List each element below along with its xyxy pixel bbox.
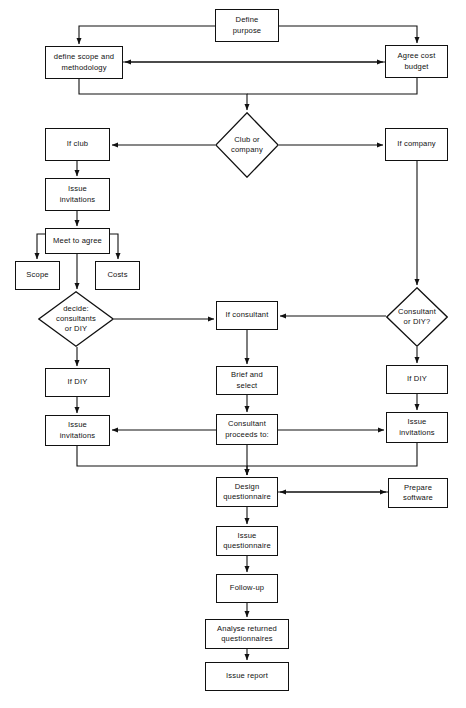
node-analyse_returned: Analyse returnedquestionnaires [205,619,289,649]
connector-define_scope-to-club_or_company [79,79,247,110]
node-issue_questionnaire: Issuequestionnaire [216,526,278,556]
node-label-club_or_company: Club orcompany [215,112,279,178]
node-if_diy_left: If DIY [45,368,110,397]
node-if_company: If company [385,128,448,161]
node-label-issue_invitations_1: Issueinvitations [60,184,95,205]
node-label-analyse_returned: Analyse returnedquestionnaires [217,624,277,645]
node-label-if_consultant: If consultant [226,310,269,320]
node-label-issue_invitations_2: Issueinvitations [60,420,95,441]
flowchart-canvas: Definepurposedefine scope andmethodology… [0,0,466,708]
node-design_questionnaire: Designquestionnaire [216,477,278,507]
node-label-meet_to_agree: Meet to agree [53,236,102,246]
node-decide_consult_diy: decide:consultantsor DIY [38,291,114,347]
node-label-issue_invitations_3: Issueinvitations [399,417,434,438]
node-brief_and_select: Brief andselect [216,366,278,395]
connector-issue_invitations_2-to-design_questionnaire [77,446,247,475]
node-label-if_company: If company [397,139,436,149]
connector-define_purpose-to-define_scope [79,26,215,44]
node-label-if_club: If club [67,139,88,149]
node-if_diy_right: If DIY [386,365,448,394]
node-follow_up: Follow-up [216,574,278,603]
node-label-brief_and_select: Brief andselect [231,370,263,391]
node-define_purpose: Definepurpose [215,9,279,42]
node-label-design_questionnaire: Designquestionnaire [223,482,271,503]
node-label-define_purpose: Definepurpose [233,15,262,36]
node-label-consultant_or_diy: Consultantor DIY? [386,287,448,347]
node-label-prepare_software: Preparesoftware [403,483,433,504]
connector-agree_cost-to-club_or_company [247,78,417,94]
node-issue_invitations_2: Issueinvitations [45,415,110,446]
node-scope: Scope [15,261,60,290]
node-label-consultant_proceeds: Consultantproceeds to: [225,419,269,440]
node-agree_cost: Agree costbudget [385,45,448,78]
node-consultant_proceeds: Consultantproceeds to: [216,414,278,445]
node-label-issue_questionnaire: Issuequestionnaire [223,531,271,552]
node-label-if_diy_left: If DIY [68,377,88,387]
node-if_consultant: If consultant [216,301,278,330]
node-label-define_scope: define scope andmethodology [54,52,114,73]
node-club_or_company: Club orcompany [215,112,279,178]
node-label-scope: Scope [26,270,48,280]
node-if_club: If club [45,128,110,161]
node-consultant_or_diy: Consultantor DIY? [386,287,448,347]
node-label-issue_report: Issue report [226,671,268,681]
node-costs: Costs [95,261,140,290]
node-label-agree_cost: Agree costbudget [398,51,436,72]
node-define_scope: define scope andmethodology [45,46,123,79]
node-prepare_software: Preparesoftware [388,478,448,508]
node-issue_report: Issue report [205,662,289,691]
node-label-follow_up: Follow-up [230,583,264,593]
node-label-decide_consult_diy: decide:consultantsor DIY [38,291,114,347]
connector-define_purpose-to-agree_cost [279,26,417,43]
connector-issue_invitations_3-to-design_questionnaire [247,443,417,466]
node-issue_invitations_3: Issueinvitations [386,412,448,443]
node-meet_to_agree: Meet to agree [45,228,110,254]
node-label-costs: Costs [107,270,127,280]
node-label-if_diy_right: If DIY [407,374,427,384]
node-issue_invitations_1: Issueinvitations [45,178,110,211]
